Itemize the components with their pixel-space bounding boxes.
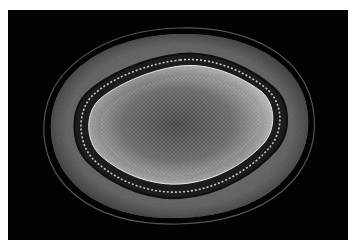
micrograph-frame: [8, 10, 348, 240]
stem-cross-section: [8, 10, 348, 240]
